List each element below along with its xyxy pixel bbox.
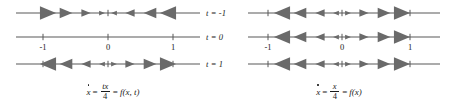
panel-nonautonomous: t = -1 t = 0 t = 1 -1 0 1 x = tx 4 = f(x… [0,0,226,103]
arrow-right-icon [378,32,391,42]
panel-autonomous: -1 0 1 x = x 4 = f(x) [226,0,452,103]
arrow-left-icon [274,30,290,43]
tick-label-zero-left: 0 [106,42,110,52]
phase-lines-right [226,0,452,80]
equation-left-rhs: f(x, t) [120,87,140,97]
arrow-left-icon [40,57,56,70]
arrow-right-icon [359,33,368,41]
arrow-left-icon [294,8,307,18]
arrow-left-icon [60,59,73,69]
phase-line [16,57,200,70]
equation-left-equals-2: = [112,87,118,97]
arrow-left-icon [294,32,307,42]
arrow-right-icon [345,11,351,16]
arrow-right-icon [359,9,368,17]
equation-right-lhs: x [316,87,320,97]
phase-line [248,6,440,19]
arrow-right-icon [394,6,410,19]
phase-line [16,34,200,40]
equation-right-equals-1: = [322,87,328,97]
arrow-left-icon [274,6,290,19]
arrow-right-icon [144,59,157,69]
phase-line [16,6,200,19]
phase-line-figure: t = -1 t = 0 t = 1 -1 0 1 x = tx 4 = f(x… [0,0,452,103]
arrow-right-icon [378,59,391,69]
equation-right-numerator: x [331,82,338,91]
arrow-right-icon [125,60,134,68]
arrow-right-icon [345,62,351,67]
arrow-left-icon [99,62,105,67]
equation-right-equals-2: = [342,87,348,97]
arrow-right-icon [394,57,410,70]
phase-lines-left [0,0,226,80]
equation-left-numerator: tx [101,82,110,91]
arrow-left-icon [315,33,324,41]
time-label-t-one: t = 1 [206,59,223,69]
arrow-right-icon [160,57,176,70]
equation-left-lhs: x [87,87,91,97]
tick-label-minus-one-right: -1 [264,42,271,52]
arrow-left-icon [333,35,339,40]
time-label-t-zero: t = 0 [206,32,223,42]
equation-left: x = tx 4 = f(x, t) [0,82,226,101]
arrow-right-icon [378,8,391,18]
arrow-left-icon [333,11,339,16]
arrow-right-icon [345,35,351,40]
arrow-left-icon [81,60,90,68]
tick-label-one-right: 1 [408,42,412,52]
tick-label-zero-right: 0 [340,42,344,52]
equation-left-equals-1: = [92,87,98,97]
time-label-t-minus-1: t = -1 [206,8,226,18]
equation-left-fraction: tx 4 [101,82,110,101]
arrow-left-icon [333,62,339,67]
tick-label-minus-one-left: -1 [39,42,46,52]
arrow-left-icon [315,60,324,68]
equation-right: x = x 4 = f(x) [226,82,452,101]
arrow-right-icon [111,62,117,67]
equation-right-fraction: x 4 [330,82,339,101]
arrow-right-icon [359,60,368,68]
arrow-left-icon [160,6,176,19]
equation-right-denominator: 4 [331,92,338,101]
arrow-right-icon [99,11,105,16]
arrow-left-icon [315,9,324,17]
equation-left-denominator: 4 [102,92,109,101]
phase-line [248,57,440,70]
arrow-left-icon [294,59,307,69]
arrow-right-icon [60,8,73,18]
arrow-right-icon [40,6,56,19]
arrow-left-icon [111,11,117,16]
equation-right-rhs: f(x) [349,87,362,97]
arrow-left-icon [125,9,134,17]
arrow-right-icon [81,9,90,17]
arrow-left-icon [274,57,290,70]
arrow-left-icon [144,8,157,18]
tick-label-one-left: 1 [171,42,175,52]
